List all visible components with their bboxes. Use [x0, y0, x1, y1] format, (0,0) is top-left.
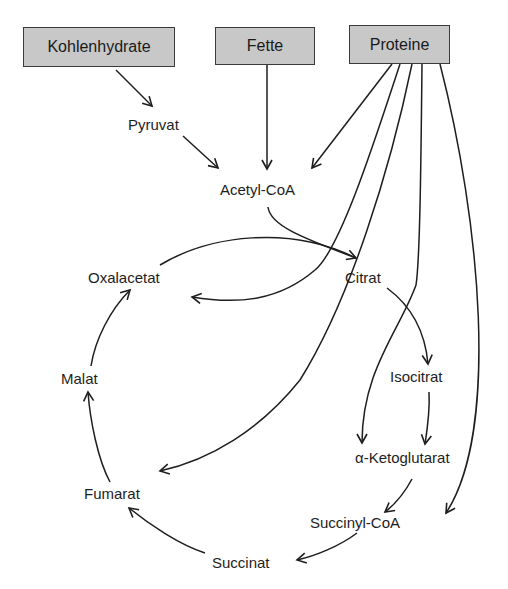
source-proteine-label: Proteine — [370, 36, 430, 54]
arrow-oxalacetat-citrat — [160, 237, 356, 265]
node-citrat: Citrat — [345, 269, 381, 286]
node-oxalacetat: Oxalacetat — [88, 269, 160, 286]
node-succinyl-coa: Succinyl-CoA — [310, 514, 400, 531]
arrow-kohlenhydrate-pyruvat — [116, 70, 152, 106]
node-alpha-ketoglutarat: α-Ketoglutarat — [355, 449, 450, 466]
node-succinat: Succinat — [212, 554, 270, 571]
node-pyruvat: Pyruvat — [128, 116, 179, 133]
source-fette-label: Fette — [247, 37, 283, 55]
source-kohlenhydrate-label: Kohlenhydrate — [47, 38, 150, 56]
pathway-arrows — [0, 0, 508, 589]
node-acetyl-coa: Acetyl-CoA — [220, 181, 295, 198]
source-proteine: Proteine — [349, 25, 450, 64]
arrow-citrat-isocitrat — [387, 288, 428, 364]
arrow-proteine-succinylcoa — [440, 64, 479, 513]
arrow-aketoglutarat-succinylcoa — [385, 479, 412, 512]
source-fette: Fette — [215, 27, 315, 65]
source-kohlenhydrate: Kohlenhydrate — [23, 27, 175, 67]
arrow-fumarat-malat — [88, 392, 110, 482]
arrow-acetylcoa-citrat — [268, 207, 356, 258]
arrow-isocitrat-aketoglutarat — [425, 392, 429, 444]
node-fumarat: Fumarat — [84, 485, 140, 502]
arrow-proteine-acetylcoa — [312, 64, 392, 168]
node-isocitrat: Isocitrat — [390, 368, 443, 385]
arrow-proteine-aketoglutarat — [362, 64, 422, 443]
arrow-malat-oxalacetat — [91, 290, 130, 366]
arrow-proteine-fumarat — [160, 64, 412, 471]
arrow-succinat-fumarat — [129, 508, 205, 553]
arrow-succinylcoa-succinat — [297, 533, 357, 560]
node-malat: Malat — [61, 370, 98, 387]
arrow-pyruvat-acetylcoa — [183, 136, 218, 168]
